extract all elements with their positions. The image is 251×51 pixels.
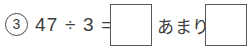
remainder-answer-box[interactable] (205, 4, 247, 46)
quotient-answer-box[interactable] (110, 4, 152, 46)
worksheet-problem-row: 3 47 ÷ 3 = あまり (0, 0, 251, 51)
remainder-label: あまり (157, 12, 203, 39)
problem-number-badge: 3 (5, 13, 28, 36)
equation-expression: 47 ÷ 3 = (35, 11, 114, 39)
